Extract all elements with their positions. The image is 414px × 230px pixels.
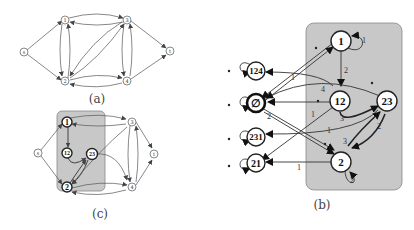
edge-2-1 — [68, 24, 70, 78]
svg-text:1: 1 — [63, 17, 66, 23]
node-s: s — [34, 149, 42, 157]
svg-text:12: 12 — [64, 150, 70, 156]
svg-text:2: 2 — [63, 78, 66, 84]
edge-3-4 — [122, 24, 124, 76]
svg-text:t: t — [153, 151, 155, 157]
panel-a: s 1 2 3 4 t (a) — [20, 14, 174, 106]
node-1: 1 — [62, 117, 72, 127]
svg-text:3: 3 — [130, 119, 133, 125]
caption-a: (a) — [89, 92, 106, 106]
node-4: 4 — [123, 77, 131, 85]
edge-label: 3 — [343, 137, 347, 146]
edge-4-t — [131, 55, 166, 79]
caption-c: (c) — [92, 207, 108, 221]
svg-text:2: 2 — [65, 183, 69, 192]
node-2: 2 — [331, 152, 351, 172]
edge-1-3 — [69, 14, 123, 18]
svg-text:4: 4 — [130, 184, 133, 190]
edge-2-4 — [70, 75, 122, 80]
node-2: 2 — [61, 77, 69, 85]
edge-3-1 — [70, 22, 123, 25]
svg-text:231: 231 — [249, 132, 263, 142]
node-12: 12 — [62, 148, 72, 158]
edge-3-4 — [128, 126, 130, 182]
edge-label: 2 — [350, 176, 354, 185]
node-23: 23 — [87, 149, 98, 160]
edge-4-3 — [136, 126, 138, 182]
node-23: 23 — [377, 91, 397, 111]
svg-text:∅: ∅ — [251, 97, 261, 109]
edge-4-3 — [130, 24, 132, 76]
edge-label: 1 — [311, 110, 315, 119]
edge-3-t — [131, 21, 166, 48]
svg-text:s: s — [23, 49, 26, 55]
node-4: 4 — [128, 183, 136, 191]
svg-text:23: 23 — [382, 95, 394, 107]
node-2: 2 — [62, 182, 72, 192]
node-empty-set: ∅ — [247, 94, 265, 112]
edge-label: 1 — [362, 36, 366, 45]
node-s: s — [20, 48, 28, 56]
node-t: t — [150, 150, 158, 158]
node-12: 12 — [330, 91, 350, 111]
svg-text:3: 3 — [125, 17, 128, 23]
edge-label: 3 — [340, 114, 344, 123]
svg-text:21: 21 — [251, 158, 261, 169]
edge-label: 1 — [291, 73, 295, 82]
edge-3-2 — [70, 22, 122, 76]
node-231: 231 — [247, 128, 265, 146]
svg-text:1: 1 — [65, 118, 69, 127]
edge-2-3 — [70, 24, 124, 78]
edge-s-1 — [27, 21, 62, 50]
svg-text:s: s — [37, 150, 40, 156]
edge-label: 4 — [321, 85, 325, 94]
caption-b: (b) — [313, 198, 330, 212]
svg-text:2: 2 — [338, 156, 344, 168]
diagram-canvas: s 1 2 3 4 t (a) s 1 12 23 2 3 4 t (c) — [0, 0, 414, 230]
node-124: 124 — [247, 62, 265, 80]
edge-4-2 — [70, 83, 122, 87]
node-1: 1 — [61, 16, 69, 24]
node-21: 21 — [247, 154, 265, 172]
svg-text:4: 4 — [125, 78, 128, 84]
edge-label: 2 — [377, 122, 381, 131]
node-1: 1 — [331, 31, 351, 51]
panel-b: 1 2 4 1 2 1 3 1 2 3 1 2 124 ∅ 231 21 1 1… — [228, 23, 402, 212]
svg-text:23: 23 — [89, 151, 95, 157]
edge-4-t — [136, 160, 152, 185]
edge-label: 2 — [344, 66, 348, 75]
svg-text:124: 124 — [249, 66, 263, 76]
node-3: 3 — [128, 118, 136, 126]
edge-label: 1 — [297, 163, 301, 172]
edge-s-2 — [27, 54, 61, 80]
svg-text:1: 1 — [338, 35, 344, 47]
edge-label: 2 — [267, 112, 271, 121]
node-3: 3 — [123, 16, 131, 24]
edge-label: 1 — [327, 126, 331, 135]
svg-text:12: 12 — [335, 95, 347, 107]
svg-text:t: t — [169, 48, 171, 54]
edge-3-t — [136, 122, 152, 148]
node-t: t — [166, 47, 174, 55]
panel-c: s 1 12 23 2 3 4 t (c) — [34, 111, 158, 221]
edge-1-2 — [60, 24, 62, 76]
